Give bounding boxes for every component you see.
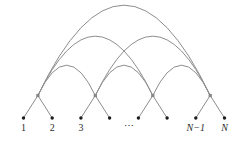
arc-network-figure: 123N−1N⋯ bbox=[0, 0, 243, 144]
hub-node bbox=[209, 94, 212, 97]
hub-arc bbox=[95, 65, 153, 96]
diagram-svg: 123N−1N⋯ bbox=[0, 0, 243, 144]
leaf-node bbox=[165, 116, 168, 119]
leaf-node bbox=[194, 116, 197, 119]
hub-node bbox=[36, 94, 39, 97]
leaf-node bbox=[137, 116, 140, 119]
leaf-label: 2 bbox=[50, 122, 55, 133]
leaf-node bbox=[79, 116, 82, 119]
leaf-label: N−1 bbox=[186, 122, 205, 133]
leaf-label: 3 bbox=[78, 122, 83, 133]
hub-arc bbox=[38, 65, 95, 96]
hub-arc bbox=[153, 65, 210, 96]
leaf-node bbox=[22, 116, 25, 119]
leaf-node bbox=[108, 116, 111, 119]
leaf-node bbox=[51, 116, 54, 119]
tree-edge bbox=[196, 96, 210, 119]
leaf-label: N bbox=[220, 122, 229, 133]
tree-edge bbox=[210, 96, 224, 119]
hub-node bbox=[94, 94, 97, 97]
tree-edge bbox=[81, 96, 95, 119]
leaf-label: 1 bbox=[21, 122, 26, 133]
tree-edge bbox=[95, 96, 109, 119]
ellipsis-label: ⋯ bbox=[124, 120, 134, 131]
tree-edge bbox=[153, 96, 167, 119]
tree-edge bbox=[138, 96, 152, 119]
leaf-node bbox=[223, 116, 226, 119]
tree-edge bbox=[24, 96, 38, 119]
hub-arc bbox=[95, 36, 210, 96]
hub-node bbox=[151, 94, 154, 97]
tree-edge bbox=[38, 96, 52, 119]
hub-arc bbox=[38, 36, 153, 96]
